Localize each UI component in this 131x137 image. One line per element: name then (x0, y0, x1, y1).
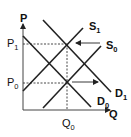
demand-curve-d1 (43, 20, 111, 92)
supply-demand-diagram: P Q P1 P0 Q0 S1 S0 D1 D0 (0, 0, 131, 137)
demand-curve-d0 (23, 36, 91, 107)
s1-label: S1 (89, 20, 101, 35)
quantity-axis-label: Q (109, 108, 118, 120)
d1-label: D1 (115, 87, 127, 102)
price-axis-label: P (20, 12, 27, 24)
supply-curve-s0 (43, 46, 101, 108)
s0-label: S0 (106, 39, 118, 54)
p0-label: P0 (7, 76, 19, 91)
q0-label: Q0 (62, 117, 75, 132)
p1-label: P1 (7, 37, 19, 52)
d0-label: D0 (97, 95, 109, 110)
